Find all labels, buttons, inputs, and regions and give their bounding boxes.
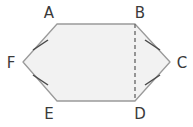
hexagon-diagram: A B C D E F (0, 0, 193, 127)
vertex-label-E: E (44, 105, 53, 123)
vertex-label-A: A (44, 4, 55, 22)
vertex-label-C: C (177, 54, 187, 72)
vertex-label-F: F (7, 54, 16, 72)
geometry-figure-canvas: A B C D E F (0, 0, 193, 127)
vertex-label-B: B (135, 4, 145, 22)
vertex-label-D: D (134, 105, 146, 123)
